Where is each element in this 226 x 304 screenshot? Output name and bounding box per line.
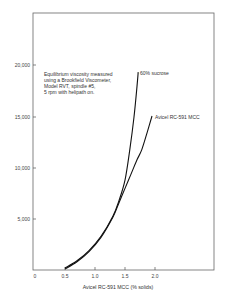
x-axis-title: Avicel RC-591 MCC (% solids) xyxy=(83,284,154,290)
series-label-avicel: Avicel RC-591 MCC xyxy=(155,114,200,120)
x-tick-label: 2.0 xyxy=(152,273,159,279)
x-axis xyxy=(65,267,155,270)
y-tick-label: 15,000 xyxy=(15,114,31,120)
y-tick-label: 10,000 xyxy=(15,165,31,171)
y-tick-label: 5,000 xyxy=(17,216,30,222)
series-line-sucrose xyxy=(65,72,138,268)
x-tick-label: 1.5 xyxy=(122,273,129,279)
x-tick-label: 0.5 xyxy=(62,273,69,279)
y-axis xyxy=(33,65,36,219)
series-label-sucrose: 60% sucrose xyxy=(140,70,169,76)
viscosity-chart: 5,000 10,000 15,000 20,000 0 0.5 1.0 1.5… xyxy=(0,0,226,304)
series-line-avicel xyxy=(65,116,152,269)
plot-frame xyxy=(33,13,214,270)
annotation-line: 5 rpm with helipath on. xyxy=(44,89,94,95)
x-tick-label: 1.0 xyxy=(92,273,99,279)
x-tick-label: 0 xyxy=(34,273,37,279)
y-tick-label: 20,000 xyxy=(15,62,31,68)
